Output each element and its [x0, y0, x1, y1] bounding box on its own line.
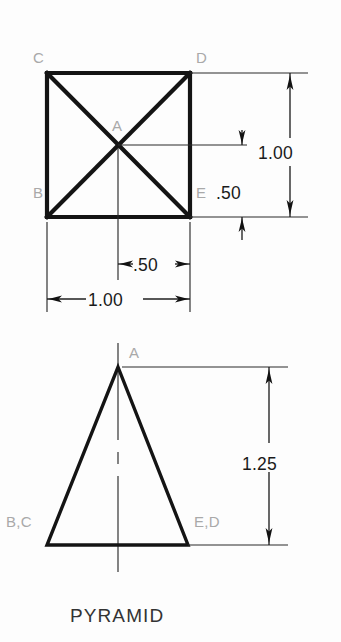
vertex-label-e: E [196, 184, 206, 201]
vertex-label-bc: B,C [6, 513, 32, 530]
dimension-value-top-height: 1.00 [258, 143, 293, 163]
vertex-label-d: D [196, 49, 207, 66]
drawing-title: PYRAMID [70, 605, 164, 626]
vertex-label-c: C [33, 49, 44, 66]
dimension-top-half-height-.50: .50 [216, 130, 245, 240]
dimension-value-top-half-width: .50 [133, 255, 158, 275]
dimension-top-width-1.00: 1.00 [47, 290, 190, 310]
pyramid-orthographic-drawing: 1.00 .50 .50 [0, 0, 341, 642]
top-view-extension-lines-bottom [47, 148, 190, 312]
vertex-label-a-front: A [129, 344, 139, 361]
top-view-group: 1.00 .50 .50 [33, 49, 308, 312]
dimension-value-top-width: 1.00 [88, 290, 123, 310]
technical-drawing-canvas: 1.00 .50 .50 [0, 0, 341, 642]
vertex-label-a-top: A [112, 117, 122, 134]
dimension-value-front-height: 1.25 [242, 454, 277, 474]
vertex-label-b: B [33, 184, 43, 201]
dimension-front-height-1.25: 1.25 [242, 367, 277, 545]
front-view-group: 1.25 A B,C E,D [6, 343, 288, 572]
dimension-top-half-width-.50: .50 [118, 255, 190, 275]
dimension-value-top-half-height: .50 [216, 183, 241, 203]
dimension-top-height-1.00: 1.00 [258, 73, 293, 217]
vertex-label-ed: E,D [194, 513, 220, 530]
